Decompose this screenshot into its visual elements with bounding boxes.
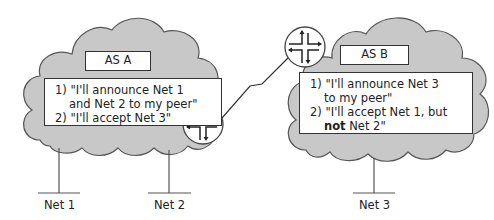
as-b-title-box: AS B xyxy=(340,45,409,65)
as-b-title: AS B xyxy=(361,47,388,61)
net-1-label: Net 1 xyxy=(44,198,75,212)
as-b-policy-line: 1) "I'll announce Net 3 xyxy=(310,77,466,91)
emphasis-not: not xyxy=(324,119,346,133)
as-b-policy-line: not Net 2" xyxy=(310,119,466,133)
as-b-policy-box: 1) "I'll announce Net 3 to my peer" 2) "… xyxy=(299,72,473,134)
net-3-label: Net 3 xyxy=(359,198,390,212)
router-icon xyxy=(285,27,325,67)
as-a-policy-line: 2) "I'll accept Net 3" xyxy=(55,111,215,125)
as-a-policy-line: 1) "I'll announce Net 1 xyxy=(55,83,215,97)
net-1-segment xyxy=(38,148,80,193)
serial-link xyxy=(222,58,288,118)
as-a-policy-line: and Net 2 to my peer" xyxy=(55,97,215,111)
as-a-title-box: AS A xyxy=(85,51,151,71)
as-a-title: AS A xyxy=(105,53,132,67)
bgp-peering-diagram: AS A 1) "I'll announce Net 1 and Net 2 t… xyxy=(0,0,494,220)
net-2-label: Net 2 xyxy=(154,198,185,212)
as-a-policy-box: 1) "I'll announce Net 1 and Net 2 to my … xyxy=(44,78,222,126)
as-b-policy-line: 2) "I'll accept Net 1, but xyxy=(310,105,466,119)
as-b-policy-line-rest: Net 2" xyxy=(346,119,386,133)
as-b-policy-line: to my peer" xyxy=(310,91,466,105)
net-3-segment xyxy=(353,158,395,193)
net-2-segment xyxy=(148,150,191,193)
